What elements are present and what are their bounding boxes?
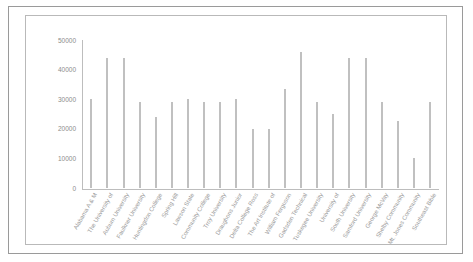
- bar: [171, 102, 173, 188]
- bar: [300, 52, 302, 188]
- bar: [332, 114, 334, 188]
- y-tick-label: 20000: [58, 125, 76, 132]
- chart-screenshot: 01000020000300004000050000 Alabama A & M…: [0, 0, 473, 262]
- y-tick-label: 30000: [58, 96, 76, 103]
- bar: [284, 89, 286, 188]
- bar: [429, 102, 431, 188]
- bar: [365, 58, 367, 188]
- plot-area: [83, 40, 438, 188]
- bar: [316, 102, 318, 188]
- bar: [413, 158, 415, 188]
- bar: [106, 58, 108, 188]
- x-axis-tick-labels: Alabama A & MThe University ofAuburn Uni…: [83, 192, 443, 254]
- y-tick-label: 0: [72, 185, 76, 192]
- y-tick-label: 50000: [58, 37, 76, 44]
- bar: [219, 102, 221, 188]
- bar: [348, 58, 350, 188]
- bar: [187, 99, 189, 188]
- bar: [381, 102, 383, 188]
- bar: [123, 58, 125, 188]
- bar: [252, 129, 254, 188]
- y-tick-label: 40000: [58, 66, 76, 73]
- bar-series: [83, 40, 438, 188]
- x-axis-line: [82, 189, 439, 190]
- bar: [90, 99, 92, 188]
- bar: [139, 102, 141, 188]
- y-tick-label: 10000: [58, 155, 76, 162]
- chart-panel: 01000020000300004000050000 Alabama A & M…: [25, 15, 447, 245]
- bar: [397, 121, 399, 188]
- bar: [235, 99, 237, 188]
- bar: [155, 117, 157, 188]
- bar: [268, 129, 270, 188]
- bar: [203, 102, 205, 188]
- y-axis-tick-labels: 01000020000300004000050000: [26, 40, 78, 192]
